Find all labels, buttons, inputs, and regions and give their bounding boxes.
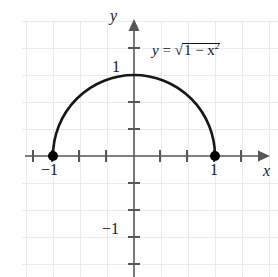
grid-lines [22, 21, 278, 277]
x-axis-arrowhead [258, 151, 270, 162]
equation-lhs: y [152, 42, 159, 58]
graph-canvas [0, 0, 278, 277]
y-tick-label-pos-one: 1 [112, 59, 120, 75]
x-tick-label-neg-one: −1 [41, 162, 58, 178]
x-axis-label: x [263, 163, 270, 179]
equation-radicand-b: x [207, 42, 215, 58]
equation-annotation: y = √1 − x2 [152, 42, 219, 58]
endpoint-dot-left [48, 151, 58, 161]
semicircle-graph-figure: x y −1 1 1 −1 y = √1 − x2 [0, 0, 278, 277]
radical-sign-icon: √1 − x2 [175, 42, 220, 58]
endpoint-dot-right [210, 151, 220, 161]
equation-equals: = [162, 42, 170, 58]
equation-minus: − [195, 42, 203, 58]
x-tick-label-pos-one: 1 [210, 162, 218, 178]
axes [25, 26, 262, 277]
y-axis-label: y [110, 8, 117, 24]
y-tick-label-neg-one: −1 [102, 221, 119, 237]
